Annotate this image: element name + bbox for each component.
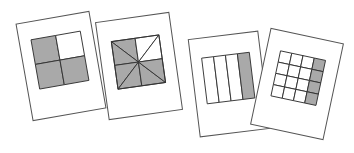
unshaded-part bbox=[56, 31, 85, 60]
fraction-model bbox=[111, 35, 165, 89]
fraction-model bbox=[271, 51, 326, 106]
cards-canvas bbox=[0, 0, 354, 153]
fraction-model bbox=[202, 52, 255, 104]
card-four-sixteenths-grid bbox=[251, 28, 344, 139]
shaded-part bbox=[305, 92, 319, 106]
card-three-quarters-squares bbox=[16, 11, 106, 120]
shaded-part bbox=[31, 35, 60, 64]
fraction-model bbox=[31, 31, 89, 89]
shaded-part bbox=[60, 56, 89, 85]
card-six-eighths-triangles bbox=[96, 12, 183, 119]
fraction-cards-illustration: Fraction model cards 3/4 6/8 1/4 4/16 bbox=[0, 0, 354, 153]
shaded-part bbox=[35, 60, 64, 89]
